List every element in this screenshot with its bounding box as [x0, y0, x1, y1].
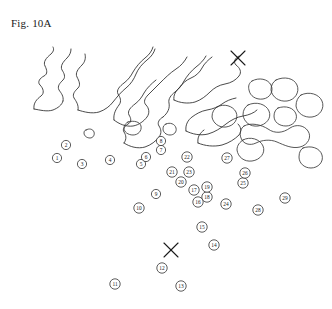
marker-circle-2[interactable] — [61, 140, 70, 149]
marker-14[interactable]: 14 — [209, 240, 219, 250]
blob-outline-11 — [212, 105, 237, 127]
marker-circle-6[interactable] — [141, 152, 150, 161]
blob-outline-6 — [243, 103, 270, 126]
contour-line-16 — [198, 130, 204, 143]
marker-10[interactable]: 10 — [134, 203, 144, 213]
marker-circle-8[interactable] — [156, 136, 165, 145]
marker-23[interactable]: 23 — [184, 167, 194, 177]
marker-circle-7[interactable] — [156, 145, 165, 154]
x-mark-upper-right — [231, 51, 245, 65]
contour-line-5 — [78, 49, 155, 113]
marker-circle-26[interactable] — [240, 168, 250, 178]
marker-11[interactable]: 11 — [110, 279, 120, 289]
marker-circle-25[interactable] — [238, 178, 248, 188]
marker-circle-27[interactable] — [222, 153, 232, 163]
marker-24[interactable]: 24 — [221, 199, 231, 209]
marker-circle-9[interactable] — [151, 189, 160, 198]
marker-6[interactable]: 6 — [141, 152, 150, 161]
blob-outlines-group — [84, 78, 323, 168]
marker-18[interactable]: 18 — [202, 192, 212, 202]
figure-drawing-canvas: 1234567891011121314151617181920212223242… — [0, 0, 332, 309]
marker-circle-13[interactable] — [176, 281, 186, 291]
marker-circle-1[interactable] — [52, 153, 61, 162]
marker-circle-29[interactable] — [280, 193, 290, 203]
marker-circle-23[interactable] — [184, 167, 194, 177]
marker-4[interactable]: 4 — [105, 155, 114, 164]
blob-outline-5 — [296, 93, 323, 117]
x-mark-lower-center — [164, 243, 178, 257]
marker-circle-19[interactable] — [202, 182, 212, 192]
figure-container: Fig. 10A — [0, 0, 332, 309]
marker-9[interactable]: 9 — [151, 189, 160, 198]
marker-15[interactable]: 15 — [197, 222, 207, 232]
contour-line-11 — [174, 56, 240, 103]
marker-22[interactable]: 22 — [182, 152, 192, 162]
marker-2[interactable]: 2 — [61, 140, 70, 149]
marker-25[interactable]: 25 — [238, 178, 248, 188]
marker-8[interactable]: 8 — [156, 136, 165, 145]
blob-outline-1 — [84, 129, 94, 138]
marker-circle-10[interactable] — [134, 203, 144, 213]
marker-circle-22[interactable] — [182, 152, 192, 162]
blob-outline-3 — [249, 79, 272, 99]
marker-circle-24[interactable] — [221, 199, 231, 209]
marker-circle-17[interactable] — [189, 185, 199, 195]
blob-outline-12 — [124, 121, 141, 135]
marker-27[interactable]: 27 — [222, 153, 232, 163]
blob-outline-2 — [163, 123, 176, 135]
marker-28[interactable]: 28 — [253, 205, 263, 215]
marker-circle-18[interactable] — [202, 192, 212, 202]
marker-circle-21[interactable] — [167, 167, 177, 177]
contour-lines-group — [34, 47, 257, 148]
blob-outline-4 — [271, 78, 298, 101]
marker-7[interactable]: 7 — [156, 145, 165, 154]
marker-17[interactable]: 17 — [189, 185, 199, 195]
marker-26[interactable]: 26 — [240, 168, 250, 178]
contour-line-6 — [114, 47, 153, 120]
contour-line-2 — [34, 101, 63, 111]
marker-circle-11[interactable] — [110, 279, 120, 289]
blob-outline-10 — [299, 147, 322, 168]
blob-outline-7 — [274, 107, 296, 126]
contour-line-3 — [58, 49, 71, 101]
marker-circle-20[interactable] — [176, 177, 186, 187]
marker-circle-14[interactable] — [209, 240, 219, 250]
contour-line-12 — [174, 57, 212, 100]
blob-outline-8 — [240, 124, 309, 147]
marker-20[interactable]: 20 — [176, 177, 186, 187]
marker-13[interactable]: 13 — [176, 281, 186, 291]
marker-29[interactable]: 29 — [280, 193, 290, 203]
marker-1[interactable]: 1 — [52, 153, 61, 162]
marker-circle-12[interactable] — [157, 263, 167, 273]
marker-circle-15[interactable] — [197, 222, 207, 232]
marker-circle-28[interactable] — [253, 205, 263, 215]
marker-19[interactable]: 19 — [202, 182, 212, 192]
marker-21[interactable]: 21 — [167, 167, 177, 177]
marker-circle-3[interactable] — [77, 159, 86, 168]
numbered-markers-group: 1234567891011121314151617181920212223242… — [52, 136, 290, 291]
contour-line-10 — [163, 56, 206, 117]
marker-3[interactable]: 3 — [77, 159, 86, 168]
marker-circle-4[interactable] — [105, 155, 114, 164]
contour-line-1 — [34, 47, 54, 109]
marker-12[interactable]: 12 — [157, 263, 167, 273]
contour-line-4 — [73, 54, 85, 110]
contour-line-14 — [186, 98, 236, 131]
blob-outline-9 — [237, 138, 264, 161]
